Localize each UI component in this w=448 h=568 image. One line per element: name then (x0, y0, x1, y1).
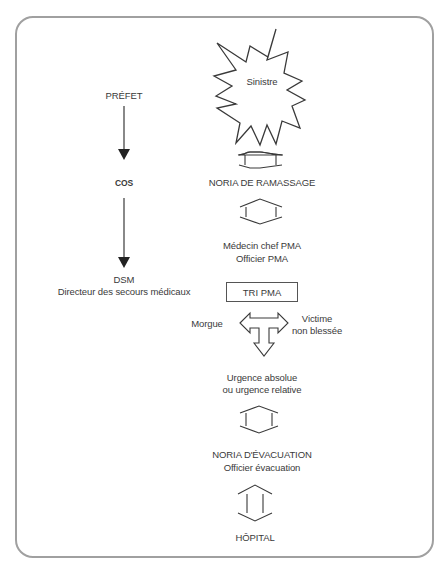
cos-label: COS (115, 177, 133, 189)
urgence-label-line2: ou urgence relative (223, 384, 302, 396)
dsm-sublabel: Directeur des secours médicaux (58, 286, 191, 298)
victime-label-line2: non blessée (292, 325, 342, 337)
victime-label-line1: Victime (302, 313, 332, 325)
dsm-label: DSM (114, 274, 135, 286)
tri-pma-box: TRI PMA (226, 282, 298, 302)
urgence-label-line1: Urgence absolue (227, 372, 297, 384)
morgue-label: Morgue (191, 318, 223, 330)
officier-pma-label: Officier PMA (236, 253, 288, 265)
arrow-cos-to-dsm-icon (118, 198, 130, 268)
medecin-chef-label: Médecin chef PMA (223, 240, 301, 252)
triage-cross-arrow-icon (240, 313, 288, 356)
tri-pma-label: TRI PMA (243, 287, 282, 298)
noria-evacuation-label: NORIA D'ÉVACUATION (212, 449, 311, 461)
double-arrow-noria-evacuation-icon (240, 406, 278, 433)
diagram-shapes (0, 0, 448, 568)
arrow-prefet-to-cos-icon (118, 106, 130, 160)
double-arrow-hopital-icon (238, 485, 272, 521)
hopital-label: HÔPITAL (235, 532, 274, 544)
noria-ramassage-label: NORIA DE RAMASSAGE (209, 177, 315, 189)
officier-evacuation-label: Officier évacuation (224, 462, 301, 474)
double-arrow-medecin-pma-icon (240, 199, 282, 224)
sinistre-label: Sinistre (247, 76, 278, 88)
double-arrow-noria-ramassage-icon (238, 152, 283, 168)
prefet-label: PRÉFET (106, 90, 143, 102)
